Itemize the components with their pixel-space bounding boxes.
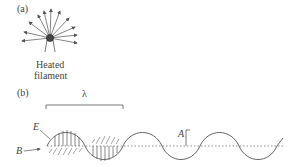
b-field-label: B — [16, 146, 22, 156]
e-field-label: E — [33, 122, 39, 132]
panel-b-label: (b) — [17, 88, 29, 98]
electric-field-vectors — [55, 130, 117, 161]
amplitude-bracket — [186, 130, 190, 146]
b-pointer — [24, 149, 40, 151]
filament-icon — [45, 34, 55, 52]
panel-a-label: (a) — [17, 4, 28, 14]
wavelength-bracket — [46, 105, 123, 109]
diagram-canvas — [0, 0, 292, 167]
wavelength-label: λ — [82, 89, 87, 99]
filament-caption-2: filament — [34, 71, 67, 81]
amplitude-label: A — [178, 129, 184, 139]
e-pointer — [40, 130, 50, 139]
filament-caption-1: Heated — [36, 60, 64, 70]
magnetic-field-vectors — [49, 136, 119, 155]
